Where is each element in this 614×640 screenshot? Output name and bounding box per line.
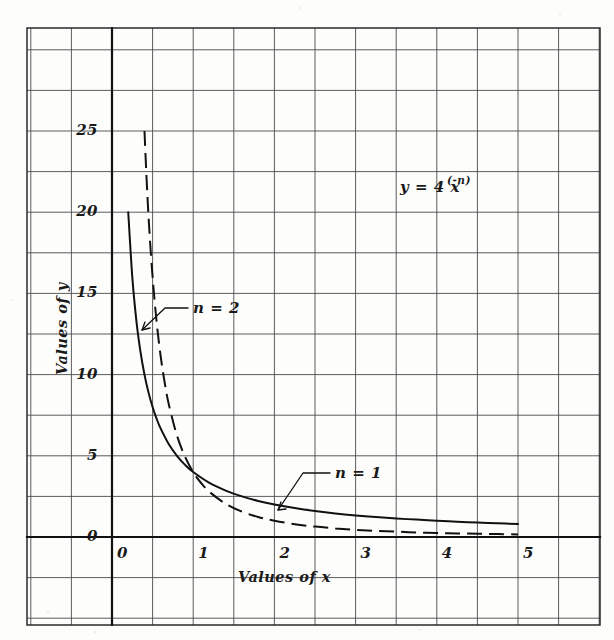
y-tick-label: 10 xyxy=(76,365,98,383)
leader-line-n2 xyxy=(142,308,188,330)
equation-annotation: y = 4 x (-n) xyxy=(399,174,471,196)
curve-series-n2 xyxy=(144,131,518,534)
graph-figure: 0510152025 012345 Values of y Values of … xyxy=(0,0,614,640)
annotation-n2-label: n = 2 xyxy=(193,299,240,317)
plot-area: 0510152025 012345 Values of y Values of … xyxy=(0,0,614,640)
x-axis-title: Values of x xyxy=(238,568,331,585)
x-tick-label: 4 xyxy=(442,544,453,562)
y-axis-title: Values of y xyxy=(53,281,70,375)
y-tick-label: 0 xyxy=(87,527,98,545)
x-tick-label: 3 xyxy=(361,544,372,562)
x-tick-label: 1 xyxy=(198,544,209,562)
y-tick-label: 20 xyxy=(75,202,98,220)
y-tick-label: 15 xyxy=(76,283,98,301)
y-tick-label: 25 xyxy=(75,121,98,139)
x-tick-label: 0 xyxy=(117,544,128,562)
y-tick-label: 5 xyxy=(87,446,98,464)
y-axis-tick-labels: 0510152025 xyxy=(75,121,98,545)
x-axis-tick-labels: 012345 xyxy=(117,544,534,562)
curve-series-n1 xyxy=(128,212,518,524)
annotation-n1-label: n = 1 xyxy=(335,464,382,482)
x-tick-label: 2 xyxy=(278,544,290,562)
x-tick-label: 5 xyxy=(523,544,534,562)
equation-exponent: (-n) xyxy=(447,174,471,186)
leader-line-n1 xyxy=(278,473,330,510)
